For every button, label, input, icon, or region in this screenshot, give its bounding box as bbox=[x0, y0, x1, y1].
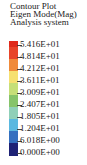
colorbar-label: 5.416E+01 bbox=[20, 40, 60, 49]
colorbar-label: 3.009E+01 bbox=[20, 88, 60, 97]
colorbar-label: 4.212E+01 bbox=[20, 64, 60, 73]
legend-title: Contour Plot Eigen Mode(Mag) Analysis sy… bbox=[10, 2, 77, 26]
colorbar-label: 3.611E+01 bbox=[20, 76, 60, 85]
colorbar-label: 4.814E+01 bbox=[20, 52, 60, 61]
colorbar-label: 1.805E+01 bbox=[20, 112, 60, 121]
colorbar-label: 0.000E+00 bbox=[20, 148, 60, 157]
title-line-3: Analysis system bbox=[10, 18, 77, 26]
colorbar bbox=[9, 41, 18, 156]
colorbar-label: 6.018E+00 bbox=[20, 136, 60, 145]
colorbar-label: 1.204E+01 bbox=[20, 124, 60, 133]
colorbar-label: 2.407E+01 bbox=[20, 100, 60, 109]
colorbar-segment bbox=[9, 143, 18, 156]
